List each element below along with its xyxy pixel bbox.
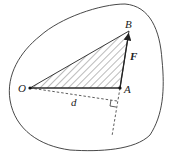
point-a (118, 86, 121, 89)
line-of-action-extension (112, 88, 120, 136)
hatched-triangle (30, 31, 129, 88)
label-distance: d (71, 96, 77, 108)
label-a: A (123, 83, 131, 95)
point-o (28, 86, 31, 89)
label-force: F (129, 50, 138, 62)
label-o: O (18, 82, 26, 94)
label-b: B (125, 18, 132, 30)
moment-diagram: O A B F d (0, 0, 170, 154)
